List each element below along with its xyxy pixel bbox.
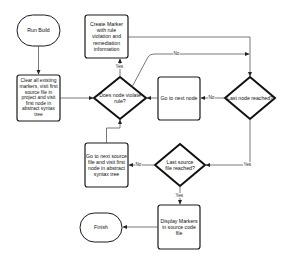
last-node-label: Last node reached? xyxy=(226,90,274,106)
create-marker-label: Create Marker with rule violation and re… xyxy=(86,16,127,57)
edge-lastnode-yes xyxy=(206,119,250,165)
lastsource-no-label: No xyxy=(135,162,142,167)
violate-no-label: No xyxy=(173,51,180,56)
lastnode-yes-label: Yes xyxy=(243,162,252,167)
lastsource-yes-label: Yes xyxy=(175,193,184,198)
clear-markers-label: Clear all existing markers, visit first … xyxy=(17,75,60,121)
lastnode-no-label: No xyxy=(208,95,215,100)
run-build-label: Run Build xyxy=(17,15,60,46)
next-source-label: Go to next source file and visit first n… xyxy=(85,143,128,187)
last-source-label: Last source file reached? xyxy=(162,156,198,174)
next-node-label: Go to next node xyxy=(158,77,200,120)
edge-nextsource-to-violate xyxy=(107,120,121,143)
edge-create-to-lastnode xyxy=(128,37,250,76)
violate-yes-label: Yes xyxy=(115,64,124,69)
finish-label: Finish xyxy=(80,213,122,242)
display-markers-label: Display Markers in source code file xyxy=(158,205,200,249)
violate-rule-label: Does node violate rule? xyxy=(98,88,142,108)
